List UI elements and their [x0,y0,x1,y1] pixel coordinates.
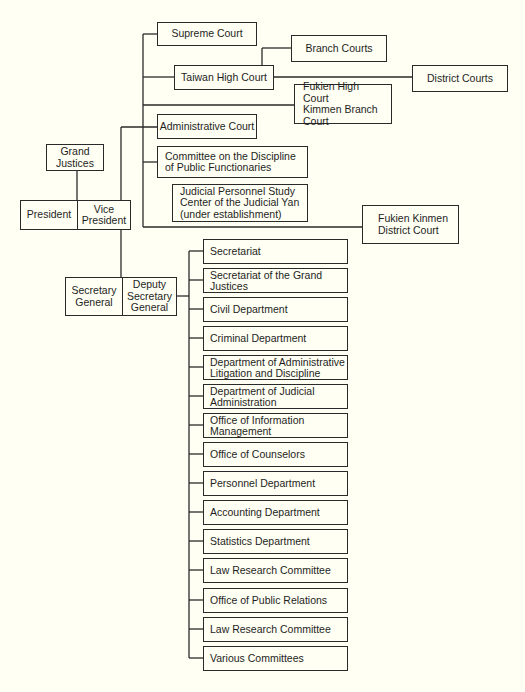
node-secretary-general: Secretary General [66,278,122,315]
dept-node: Secretariat of the Grand Justices [203,268,348,293]
dept-node: Law Research Committee [203,617,348,642]
dept-node: Department of Administrative Litigation … [203,355,348,380]
node-president-vice-president: President Vice President [20,200,131,230]
node-taiwan-high-court: Taiwan High Court [174,65,274,90]
node-secretary-general-deputy: Secretary General Deputy Secretary Gener… [65,277,177,316]
org-chart: Supreme Court Taiwan High Court Branch C… [0,0,525,692]
dept-node: Office of Counselors [203,442,348,467]
node-label: Committee on the Discipline of Public Fu… [165,151,296,174]
node-label: Fukien High Court Kimmen Branch Court [303,81,387,127]
node-administrative-court: Administrative Court [157,114,257,139]
node-committee-discipline: Committee on the Discipline of Public Fu… [157,146,308,178]
node-grand-justices: Grand Justices [46,144,104,171]
dept-label: Law Research Committee [210,565,331,576]
node-deputy-secretary-general: Deputy Secretary General [122,278,176,315]
dept-label: Accounting Department [210,507,320,518]
dept-label: Office of Information Management [210,415,304,437]
node-fukien-high-court-kimmen-branch: Fukien High Court Kimmen Branch Court [294,84,392,124]
node-supreme-court: Supreme Court [157,22,257,46]
node-label: Fukien Kinmen District Court [378,213,448,236]
dept-label: Department of Administrative Litigation … [210,357,345,379]
node-label: District Courts [427,73,493,85]
node-fukien-kinmen-district-court: Fukien Kinmen District Court [362,205,459,244]
dept-node: Secretariat [203,239,348,264]
node-vice-president: Vice President [77,201,130,229]
node-branch-courts: Branch Courts [291,35,387,62]
dept-label: Office of Counselors [210,449,305,460]
node-label: Taiwan High Court [181,72,267,84]
dept-label: Secretariat of the Grand Justices [210,270,322,292]
dept-node: Personnel Department [203,471,348,496]
dept-node: Civil Department [203,297,348,322]
node-district-courts: District Courts [412,65,508,92]
dept-label: Various Committees [210,653,304,664]
node-label: Branch Courts [305,43,372,55]
dept-label: Secretariat [210,246,261,257]
node-label: Judicial Personnel Study Center of the J… [180,186,299,221]
dept-node: Various Committees [203,646,348,671]
node-president: President [21,201,77,229]
dept-node: Office of Public Relations [203,588,348,613]
dept-node: Criminal Department [203,326,348,351]
node-judicial-personnel-study-center: Judicial Personnel Study Center of the J… [172,184,308,222]
dept-node: Law Research Committee [203,558,348,583]
dept-node: Office of Information Management [203,413,348,438]
dept-label: Personnel Department [210,478,315,489]
dept-label: Department of Judicial Administration [210,386,314,408]
dept-label: Office of Public Relations [210,595,327,606]
node-label: Supreme Court [171,28,242,40]
dept-node: Statistics Department [203,529,348,554]
dept-label: Law Research Committee [210,624,331,635]
dept-label: Criminal Department [210,333,306,344]
node-label: Administrative Court [160,121,255,133]
dept-node: Accounting Department [203,500,348,525]
dept-label: Statistics Department [210,536,310,547]
dept-node: Department of Judicial Administration [203,384,348,409]
dept-label: Civil Department [210,304,288,315]
node-label: Grand Justices [56,146,94,169]
